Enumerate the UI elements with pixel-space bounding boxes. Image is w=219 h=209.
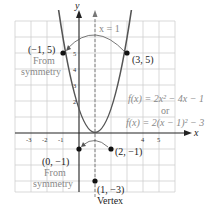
x-tick: -3 (26, 136, 31, 143)
point-note: symmetry (33, 178, 73, 189)
x-tick: 5 (157, 136, 160, 143)
point-note: symmetry (21, 66, 61, 77)
point-0-neg1 (76, 146, 81, 151)
x-axis-label: x (193, 127, 199, 138)
equation-vertex-form: f(x) = 2(x − 1)² − 3 (126, 117, 204, 129)
symmetry-arrow-icon (93, 10, 98, 17)
x-axis-arrow-icon (184, 130, 192, 136)
x-tick: -1 (58, 136, 63, 143)
equation-standard: f(x) = 2x² − 4x − 1 (128, 93, 204, 105)
x-tick: -2 (42, 136, 47, 143)
point-3-5 (124, 50, 129, 55)
parabola-graph: x y -3 -2 -1 4 5 5 4 3 2 x = 1 (−1, 5) F… (0, 0, 219, 209)
equation-or: or (161, 105, 170, 116)
x-tick: 4 (141, 136, 145, 143)
point-label: (3, 5) (132, 54, 154, 66)
point-neg1-5 (60, 50, 65, 55)
y-tick: 5 (73, 50, 76, 57)
symmetry-arc-top (68, 35, 125, 52)
point-note: From (44, 167, 66, 178)
point-2-neg1 (108, 146, 113, 151)
arc-arrow-icon (81, 142, 86, 147)
y-tick: 4 (73, 66, 77, 73)
y-axis-arrow-icon (76, 10, 82, 18)
point-vertex (92, 178, 97, 183)
symmetry-label: x = 1 (99, 23, 120, 34)
y-axis-label: y (74, 0, 80, 11)
vertex-label: Vertex (97, 195, 123, 206)
point-note: From (33, 55, 55, 66)
point-label: (2, −1) (115, 146, 142, 158)
symmetry-arc-bottom (83, 140, 108, 147)
